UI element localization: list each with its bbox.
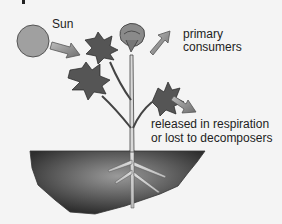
sun-label: Sun bbox=[52, 18, 73, 31]
leaf-icon bbox=[85, 32, 118, 64]
energy-flow-diagram bbox=[0, 0, 282, 224]
released-label-line2: or lost to decomposers bbox=[151, 132, 272, 145]
sunlight-arrow-icon bbox=[50, 42, 80, 58]
sun-icon bbox=[17, 25, 49, 57]
stem-icon bbox=[130, 55, 134, 152]
primary-consumers-label-line2: consumers bbox=[183, 41, 242, 54]
branch-stem bbox=[110, 62, 131, 100]
primary-consumers-arrow-icon bbox=[150, 31, 170, 55]
branch-stem bbox=[102, 96, 131, 128]
branch-stem bbox=[133, 102, 152, 128]
flower-icon bbox=[120, 23, 145, 52]
released-label-line1: released in respiration bbox=[151, 118, 269, 131]
cropped-glyph bbox=[22, 0, 25, 4]
leaf-icon bbox=[68, 62, 110, 100]
